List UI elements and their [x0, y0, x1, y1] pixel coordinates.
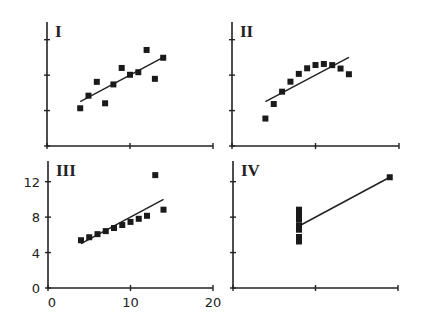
data-point: [160, 55, 166, 61]
data-point: [296, 71, 302, 77]
x-tick-label: 10: [122, 295, 139, 310]
data-point: [144, 47, 150, 53]
y-tick-label: 12: [23, 175, 40, 190]
data-point: [296, 236, 302, 242]
panel-I: I: [44, 22, 213, 149]
panel-label: II: [240, 22, 254, 41]
data-point: [86, 234, 92, 240]
regression-line: [265, 57, 349, 101]
data-point: [78, 237, 84, 243]
data-point: [152, 172, 158, 178]
x-tick-label: 0: [48, 295, 56, 310]
data-point: [387, 174, 393, 180]
regression-line: [299, 177, 390, 226]
data-point: [271, 101, 277, 107]
panel-III: 0481201020III: [23, 161, 221, 310]
data-point: [262, 116, 268, 122]
y-tick-label: 4: [32, 246, 40, 261]
data-point: [135, 69, 141, 75]
data-point: [329, 62, 335, 68]
panel-II: II: [229, 22, 399, 149]
data-point: [119, 222, 125, 228]
data-point: [287, 79, 293, 85]
data-point: [296, 215, 302, 221]
y-tick-label: 0: [32, 281, 40, 296]
data-point: [313, 62, 319, 68]
data-point: [144, 213, 150, 219]
x-tick-label: 20: [205, 295, 222, 310]
data-point: [127, 72, 133, 78]
data-point: [296, 224, 302, 230]
data-point: [321, 61, 327, 67]
data-point: [338, 66, 344, 72]
data-point: [304, 65, 310, 71]
data-point: [94, 79, 100, 85]
data-point: [346, 71, 352, 77]
regression-line: [81, 199, 164, 243]
y-tick-label: 8: [32, 210, 40, 225]
data-point: [86, 93, 92, 99]
panel-label: III: [56, 161, 76, 180]
data-point: [103, 228, 109, 234]
panel-IV: IV: [230, 161, 398, 291]
data-point: [110, 81, 116, 87]
data-point: [152, 76, 158, 82]
data-point: [119, 65, 125, 71]
data-point: [136, 216, 142, 222]
panel-label: I: [55, 22, 62, 41]
anscombe-quartet-chart: I II 0481201020III IV: [0, 0, 421, 325]
data-point: [279, 89, 285, 95]
data-point: [77, 105, 83, 111]
data-point: [128, 219, 134, 225]
data-point: [102, 100, 108, 106]
regression-line: [80, 57, 163, 101]
data-point: [95, 231, 101, 237]
data-point: [161, 207, 167, 213]
panel-label: IV: [241, 161, 261, 180]
data-point: [111, 225, 117, 231]
